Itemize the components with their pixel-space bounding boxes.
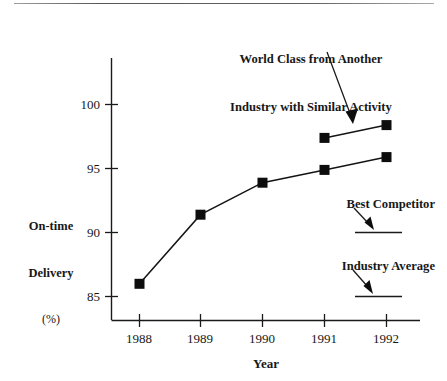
y-axis-label-line1: On-time: [10, 219, 92, 235]
y-tick-label-100: 100: [66, 97, 100, 112]
chart-figure: 100 95 90 85 1988 1989 1990 1991 1992 On…: [0, 0, 447, 381]
annotation-best-competitor: Best Competitor: [272, 197, 435, 212]
y-axis-label: On-time Delivery (%): [10, 188, 92, 358]
annotation-world-class: World Class from Another Industry with S…: [186, 21, 436, 147]
annotation-world-class-line1: World Class from Another: [186, 52, 436, 68]
x-tick-label-1992: 1992: [363, 331, 409, 346]
annotation-world-class-line2: Industry with Similar Activity: [186, 100, 436, 116]
y-axis-label-line2: Delivery: [10, 266, 92, 282]
x-tick-label-1991: 1991: [301, 331, 347, 346]
x-tick-label-1990: 1990: [239, 331, 285, 346]
annotation-industry-average: Industry Average: [272, 259, 435, 274]
x-tick-label-1989: 1989: [177, 331, 223, 346]
y-axis-label-line3: (%): [10, 312, 92, 327]
x-tick-label-1988: 1988: [116, 331, 162, 346]
x-axis-label: Year: [243, 356, 289, 371]
y-tick-label-95: 95: [66, 161, 100, 176]
